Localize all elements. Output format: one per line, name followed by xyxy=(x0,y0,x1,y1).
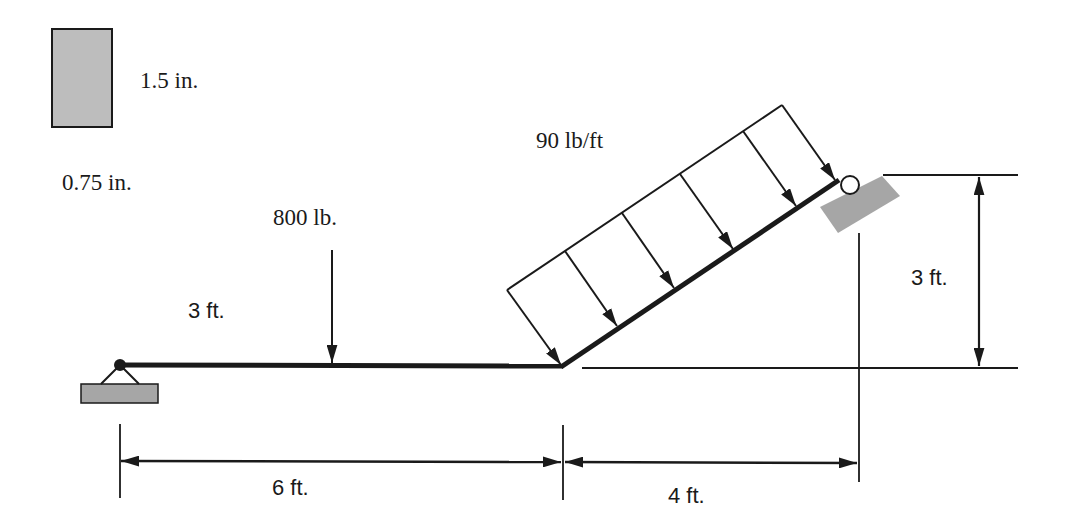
point-load-position-label: 3 ft. xyxy=(188,298,225,323)
distributed-load-arrow-icon xyxy=(622,213,674,288)
rise-label: 3 ft. xyxy=(911,265,948,290)
point-load-label: 800 lb. xyxy=(273,205,337,230)
inclined-beam-segment xyxy=(561,180,839,367)
beam xyxy=(120,180,839,367)
distributed-load-arrow-icon xyxy=(507,290,561,365)
span-6ft-label: 6 ft. xyxy=(272,475,309,500)
roller-icon xyxy=(841,176,859,194)
distributed-load-label: 90 lb/ft xyxy=(536,128,604,153)
distributed-load-arrow-icon xyxy=(743,131,796,206)
section-height-label: 1.5 in. xyxy=(140,68,198,93)
cross-section-rect xyxy=(52,29,112,127)
horizontal-beam-segment xyxy=(120,365,563,366)
cross-section: 1.5 in. 0.75 in. xyxy=(52,29,198,195)
beam-diagram: 1.5 in. 0.75 in. 800 lb. 3 ft. 90 lb/ft xyxy=(0,0,1069,530)
distributed-load-arrow-icon xyxy=(565,251,617,326)
pin-support-base xyxy=(81,384,158,403)
distributed-load-arrow-icon xyxy=(680,174,733,249)
span-6ft-arrow-icon xyxy=(121,461,561,462)
point-load: 800 lb. 3 ft. xyxy=(188,205,337,363)
section-width-label: 0.75 in. xyxy=(62,170,132,195)
distributed-load-arrow-icon xyxy=(782,105,835,180)
span-4ft-label: 4 ft. xyxy=(668,483,705,508)
span-4ft-arrow-icon xyxy=(565,462,857,463)
